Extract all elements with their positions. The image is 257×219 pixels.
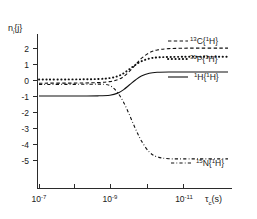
y-tick-label: -3 bbox=[21, 124, 29, 134]
curve-15n-1h bbox=[39, 84, 228, 159]
x-axis-ticks bbox=[40, 184, 184, 189]
series-label-13c-1h: 13C{1H} bbox=[190, 36, 218, 47]
series-labels: 13C{1H} 31P{1H} 1H{1H} 15N{1H} bbox=[190, 36, 224, 169]
y-axis-tick-labels: 2 1 0 -1 -2 -3 -4 -5 bbox=[21, 44, 29, 166]
y-tick-label: -1 bbox=[21, 92, 29, 102]
series-label-1h-1h: 1H{1H} bbox=[194, 72, 219, 83]
x-axis-title: τc(s) bbox=[205, 194, 222, 206]
series-label-31p-1h: 31P{1H} bbox=[190, 54, 218, 65]
series-label-15n-1h: 15N{1H} bbox=[196, 158, 224, 169]
y-tick-label: -4 bbox=[21, 140, 29, 150]
y-tick-label: -2 bbox=[21, 108, 29, 118]
y-axis-title: ni{j} bbox=[8, 23, 22, 35]
nmr-noe-enhancement-chart: 2 1 0 -1 -2 -3 -4 -5 ni{j} 10-7 10-9 10-… bbox=[0, 0, 257, 219]
y-tick-label: 1 bbox=[24, 60, 29, 70]
x-axis-title-tail: (s) bbox=[212, 194, 223, 204]
x-tick-label-1e-9: 10-9 bbox=[103, 194, 118, 205]
y-tick-label: -5 bbox=[21, 156, 29, 166]
series-curves bbox=[39, 48, 228, 159]
y-tick-label: 2 bbox=[24, 44, 29, 54]
figure-container: 2 1 0 -1 -2 -3 -4 -5 ni{j} 10-7 10-9 10-… bbox=[0, 0, 257, 219]
x-tick-label-1e-11: 10-11 bbox=[175, 194, 193, 205]
x-tick-label-1e-7: 10-7 bbox=[32, 194, 47, 205]
y-axis-ticks bbox=[33, 49, 38, 161]
y-axis-title-braces: {j} bbox=[14, 23, 22, 33]
y-tick-label: 0 bbox=[24, 76, 29, 86]
x-axis-tick-labels: 10-7 10-9 10-11 bbox=[32, 194, 194, 205]
